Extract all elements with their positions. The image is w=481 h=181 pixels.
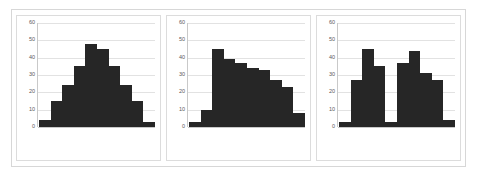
bar bbox=[339, 122, 351, 127]
ytick-label: 10 bbox=[179, 107, 185, 113]
x-axis-label-slot bbox=[282, 128, 294, 158]
bar bbox=[235, 63, 247, 127]
x-axis-label-slot bbox=[420, 128, 432, 158]
bar bbox=[259, 70, 271, 127]
ytick-label: 20 bbox=[329, 90, 335, 96]
x-axis-label-slot bbox=[223, 128, 235, 158]
bar bbox=[420, 73, 432, 127]
x-axis-label-slot bbox=[50, 128, 62, 158]
bar bbox=[374, 66, 386, 127]
ytick-label: 60 bbox=[29, 20, 35, 26]
x-axis-label-slot bbox=[120, 128, 132, 158]
bar bbox=[97, 49, 109, 127]
chart-panel-3: 60 50 40 30 20 10 0 bbox=[316, 15, 461, 161]
histogram-chart-row: 60 50 40 30 20 10 0 60 50 40 30 20 10 0 bbox=[11, 9, 466, 167]
bar bbox=[443, 120, 455, 127]
plot-area-1: 60 50 40 30 20 10 0 bbox=[37, 23, 155, 127]
x-axis-labels-1 bbox=[38, 128, 155, 158]
bar bbox=[351, 80, 363, 127]
ytick-label: 30 bbox=[329, 72, 335, 78]
x-axis-label-slot bbox=[361, 128, 373, 158]
ytick-label: 40 bbox=[179, 55, 185, 61]
bar bbox=[397, 63, 409, 127]
bar bbox=[74, 66, 86, 127]
ytick-label: 60 bbox=[179, 20, 185, 26]
bar bbox=[293, 113, 305, 127]
x-axis-label-slot bbox=[293, 128, 305, 158]
x-axis-label-slot bbox=[85, 128, 97, 158]
x-axis-label-slot bbox=[373, 128, 385, 158]
bar bbox=[120, 85, 132, 127]
x-axis-label-slot bbox=[132, 128, 144, 158]
x-axis-label-slot bbox=[432, 128, 444, 158]
plot-area-2: 60 50 40 30 20 10 0 bbox=[187, 23, 305, 127]
plot-area-3: 60 50 40 30 20 10 0 bbox=[337, 23, 455, 127]
bar bbox=[362, 49, 374, 127]
bar bbox=[85, 44, 97, 127]
x-axis-label-slot bbox=[38, 128, 50, 158]
caption-text: — —— —— —— — —— —— —— — —— —— —— — — bbox=[127, 0, 354, 3]
x-axis-label-slot bbox=[350, 128, 362, 158]
ytick-label: 30 bbox=[29, 72, 35, 78]
ytick-label: 40 bbox=[329, 55, 335, 61]
x-axis-label-slot bbox=[338, 128, 350, 158]
ytick-label: 40 bbox=[29, 55, 35, 61]
ytick-label: 0 bbox=[32, 124, 35, 130]
bar bbox=[51, 101, 63, 127]
bar bbox=[247, 68, 259, 127]
bar bbox=[212, 49, 224, 127]
ytick-label: 20 bbox=[179, 90, 185, 96]
chart-panel-2: 60 50 40 30 20 10 0 bbox=[166, 15, 311, 161]
bar bbox=[201, 110, 213, 127]
bar-series-3 bbox=[339, 23, 455, 127]
x-axis-labels-2 bbox=[188, 128, 305, 158]
figure-caption-clipped: — —— —— —— — —— —— —— — —— —— —— — — bbox=[0, 0, 481, 3]
ytick-label: 50 bbox=[29, 38, 35, 44]
x-axis-label-slot bbox=[443, 128, 455, 158]
x-axis-labels-3 bbox=[338, 128, 455, 158]
bar bbox=[143, 122, 155, 127]
ytick-label: 50 bbox=[329, 38, 335, 44]
x-axis-label-slot bbox=[247, 128, 259, 158]
bar bbox=[270, 80, 282, 127]
ytick-label: 0 bbox=[332, 124, 335, 130]
x-axis-label-slot bbox=[143, 128, 155, 158]
ytick-label: 10 bbox=[329, 107, 335, 113]
ytick-label: 0 bbox=[182, 124, 185, 130]
bar-series-1 bbox=[39, 23, 155, 127]
bar bbox=[224, 59, 236, 127]
x-axis-label-slot bbox=[200, 128, 212, 158]
x-axis-label-slot bbox=[108, 128, 120, 158]
x-axis-label-slot bbox=[211, 128, 223, 158]
x-axis-label-slot bbox=[97, 128, 109, 158]
ytick-label: 60 bbox=[329, 20, 335, 26]
x-axis-label-slot bbox=[270, 128, 282, 158]
bar bbox=[109, 66, 121, 127]
x-axis-label-slot bbox=[235, 128, 247, 158]
bar bbox=[132, 101, 144, 127]
x-axis-label-slot bbox=[408, 128, 420, 158]
x-axis-label-slot bbox=[61, 128, 73, 158]
ytick-label: 50 bbox=[179, 38, 185, 44]
bar-series-2 bbox=[189, 23, 305, 127]
bar bbox=[189, 122, 201, 127]
bar bbox=[385, 122, 397, 127]
x-axis-label-slot bbox=[385, 128, 397, 158]
x-axis-label-slot bbox=[73, 128, 85, 158]
chart-panel-1: 60 50 40 30 20 10 0 bbox=[16, 15, 161, 161]
ytick-label: 20 bbox=[29, 90, 35, 96]
bar bbox=[409, 51, 421, 127]
bar bbox=[39, 120, 51, 127]
bar bbox=[432, 80, 444, 127]
x-axis-label-slot bbox=[397, 128, 409, 158]
bar bbox=[62, 85, 74, 127]
x-axis-label-slot bbox=[258, 128, 270, 158]
bar bbox=[282, 87, 294, 127]
ytick-label: 10 bbox=[29, 107, 35, 113]
x-axis-label-slot bbox=[188, 128, 200, 158]
ytick-label: 30 bbox=[179, 72, 185, 78]
